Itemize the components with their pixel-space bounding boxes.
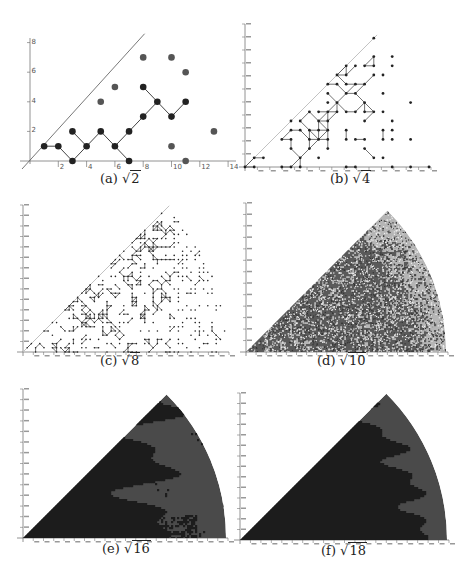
lattice-point	[136, 280, 138, 282]
lattice-point	[140, 250, 142, 252]
lattice-point	[136, 343, 138, 345]
lattice-point	[194, 322, 196, 324]
lattice-point	[299, 129, 302, 132]
lattice-point	[363, 138, 366, 141]
lattice-point	[136, 250, 138, 252]
plot-a-sqrt2: 24681012142468	[0, 0, 237, 180]
panel-a: 24681012142468 (a) √2	[0, 0, 237, 195]
lattice-point	[152, 297, 154, 299]
panel-e: (e) √16	[0, 385, 237, 580]
lattice-point	[207, 280, 209, 282]
lattice-point	[102, 330, 104, 332]
lattice-point	[148, 339, 150, 341]
lattice-point	[169, 246, 171, 248]
lattice-point	[182, 263, 184, 265]
lattice-point	[127, 322, 129, 324]
lattice-point	[152, 313, 154, 315]
lattice-point	[299, 166, 302, 169]
lattice-point	[94, 326, 96, 328]
lattice-point	[119, 259, 121, 261]
lattice-point	[299, 120, 302, 123]
lattice-point	[203, 267, 205, 269]
lattice-point	[144, 246, 146, 248]
lattice-point	[119, 255, 121, 257]
caption-a: (a) √2	[100, 171, 141, 186]
y-tick-label: 6	[32, 67, 37, 75]
lattice-point	[152, 301, 154, 303]
lattice-point	[169, 313, 171, 315]
lattice-point	[106, 318, 108, 320]
lattice-point	[161, 284, 163, 286]
lattice-point	[136, 297, 138, 299]
caption-d: (d) √10	[317, 353, 366, 368]
lattice-point	[106, 322, 108, 324]
lattice-point	[31, 343, 33, 345]
lattice-point	[115, 297, 117, 299]
lattice-point	[354, 92, 357, 95]
lattice-point	[152, 267, 154, 269]
lattice-point	[317, 120, 320, 123]
lattice-point	[207, 271, 209, 273]
lattice-point	[169, 347, 171, 349]
radicand-d: 10	[348, 352, 367, 368]
lattice-point	[409, 101, 412, 104]
lattice-point	[157, 259, 159, 261]
lattice-point	[345, 138, 348, 141]
lattice-point	[178, 288, 180, 290]
lattice-point	[123, 322, 125, 324]
lattice-point	[148, 284, 150, 286]
isolated-point	[182, 69, 189, 76]
lattice-point	[186, 255, 188, 257]
lattice-point	[173, 234, 175, 236]
lattice-point	[89, 318, 91, 320]
lattice-point	[194, 318, 196, 320]
lattice-point	[39, 343, 41, 345]
lattice-point	[161, 229, 163, 231]
lattice-point	[409, 138, 412, 141]
lattice-point	[152, 305, 154, 307]
isolated-point	[182, 158, 189, 165]
lattice-point	[81, 343, 83, 345]
lattice-point	[215, 351, 217, 353]
lattice-point	[194, 259, 196, 261]
lattice-point	[85, 313, 87, 315]
lattice-point	[203, 271, 205, 273]
lattice-point	[157, 221, 159, 223]
lattice-point	[106, 301, 108, 303]
lattice-point	[190, 250, 192, 252]
lattice-point	[169, 318, 171, 320]
lattice-point	[186, 292, 188, 294]
lattice-point	[169, 280, 171, 282]
lattice-point	[244, 166, 247, 169]
lattice-point	[64, 309, 66, 311]
lattice-point	[81, 305, 83, 307]
lattice-point	[43, 347, 45, 349]
isolated-point	[140, 54, 147, 61]
lattice-point	[52, 334, 54, 336]
lattice-point	[131, 305, 133, 307]
lattice-point	[190, 292, 192, 294]
lattice-point	[178, 326, 180, 328]
lattice-point	[190, 280, 192, 282]
lattice-point	[161, 238, 163, 240]
lattice-point	[345, 92, 348, 95]
lattice-point	[119, 322, 121, 324]
lattice-point	[207, 305, 209, 307]
lattice-point	[127, 313, 129, 315]
lattice-point	[140, 259, 142, 261]
lattice-point	[85, 292, 87, 294]
lattice-point	[308, 147, 311, 150]
lattice-point	[186, 347, 188, 349]
lattice-point	[203, 280, 205, 282]
lattice-point	[190, 288, 192, 290]
lattice-point	[391, 129, 394, 132]
lattice-point	[382, 110, 385, 113]
lattice-point	[68, 309, 70, 311]
lattice-point	[207, 343, 209, 345]
lattice-point	[345, 83, 348, 86]
lattice-point	[152, 259, 154, 261]
lattice-point	[64, 330, 66, 332]
lattice-point	[215, 334, 217, 336]
lattice-point	[372, 37, 375, 40]
lattice-point	[144, 267, 146, 269]
